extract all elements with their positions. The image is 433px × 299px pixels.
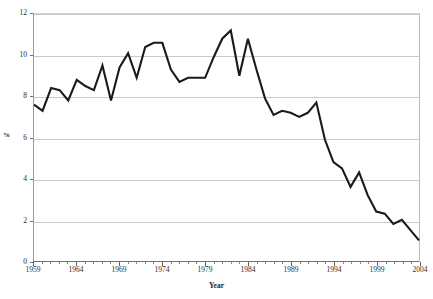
x-tick-label-1984: 1984 (241, 265, 256, 274)
x-tick-mark-2001 (394, 262, 395, 264)
x-tick-label-2004: 2004 (413, 265, 428, 274)
x-tick-mark-1981 (222, 262, 223, 264)
x-tick-mark-1988 (282, 262, 283, 264)
x-tick-label-1994: 1994 (327, 265, 342, 274)
x-tick-mark-1995 (343, 262, 344, 264)
y-tick-label-8: 8 (23, 92, 27, 100)
x-tick-mark-1975 (171, 262, 172, 264)
x-tick-mark-2000 (386, 262, 387, 264)
x-tick-mark-1978 (196, 262, 197, 264)
y-tick-label-6: 6 (23, 134, 27, 142)
plot-area (33, 13, 420, 262)
x-tick-mark-1992 (317, 262, 318, 264)
x-tick-mark-1990 (300, 262, 301, 264)
y-tick-label-10: 10 (20, 51, 28, 59)
series-plot (34, 14, 419, 261)
x-tick-mark-1972 (145, 262, 146, 264)
x-tick-mark-1996 (351, 262, 352, 264)
x-tick-mark-1976 (179, 262, 180, 264)
x-tick-mark-1997 (360, 262, 361, 264)
x-tick-mark-2003 (411, 262, 412, 264)
x-tick-label-1999: 1999 (370, 265, 385, 274)
x-tick-mark-1961 (50, 262, 51, 264)
x-tick-mark-1993 (325, 262, 326, 264)
x-tick-mark-1977 (188, 262, 189, 264)
y-tick-label-12: 12 (20, 9, 28, 17)
y-axis-tick-labels: 024681012 (0, 0, 33, 299)
series-line-path (34, 30, 419, 240)
x-tick-mark-1998 (368, 262, 369, 264)
x-tick-label-1969: 1969 (112, 265, 127, 274)
x-tick-label-1964: 1964 (69, 265, 84, 274)
x-tick-mark-1980 (214, 262, 215, 264)
x-tick-label-1959: 1959 (26, 265, 41, 274)
x-tick-mark-1965 (85, 262, 86, 264)
x-tick-mark-1983 (239, 262, 240, 264)
x-tick-mark-1991 (308, 262, 309, 264)
y-tick-label-2: 2 (23, 217, 27, 225)
x-tick-label-1974: 1974 (155, 265, 170, 274)
x-axis-title: Year (0, 281, 433, 290)
x-tick-mark-1987 (274, 262, 275, 264)
x-tick-mark-1963 (67, 262, 68, 264)
x-tick-label-1979: 1979 (198, 265, 213, 274)
x-axis-tick-labels: 1959196419691974197919841989199419992004 (0, 265, 433, 279)
x-tick-mark-1971 (136, 262, 137, 264)
x-tick-mark-1985 (257, 262, 258, 264)
x-tick-label-1989: 1989 (284, 265, 299, 274)
x-tick-mark-1968 (110, 262, 111, 264)
x-tick-mark-1962 (59, 262, 60, 264)
x-tick-mark-1967 (102, 262, 103, 264)
x-tick-mark-1966 (93, 262, 94, 264)
x-tick-mark-1970 (128, 262, 129, 264)
x-tick-mark-1986 (265, 262, 266, 264)
x-tick-mark-2002 (403, 262, 404, 264)
y-tick-label-4: 4 (23, 175, 27, 183)
x-tick-mark-1960 (42, 262, 43, 264)
x-tick-mark-1973 (153, 262, 154, 264)
x-tick-mark-1982 (231, 262, 232, 264)
chart-figure: % 024681012 1959196419691974197919841989… (0, 0, 433, 299)
